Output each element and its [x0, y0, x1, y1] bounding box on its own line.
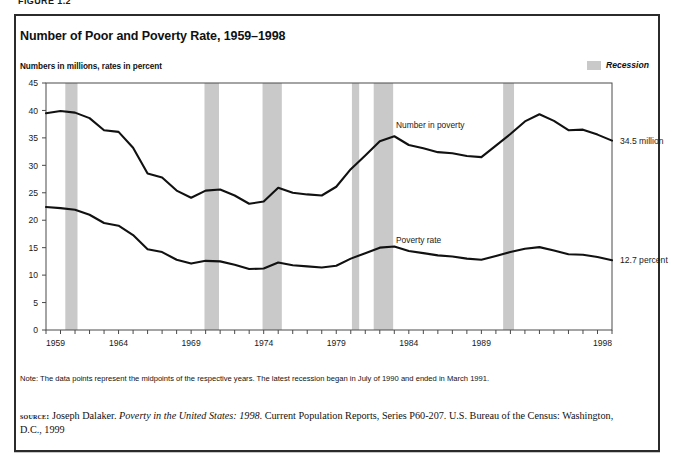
source-work-title: Poverty in the United States: 1998. — [119, 410, 262, 421]
figure-title: Number of Poor and Poverty Rate, 1959–19… — [20, 29, 285, 43]
figure-note: Note: The data points represent the midp… — [20, 374, 489, 383]
recession-swatch-icon — [587, 61, 601, 70]
legend: Recession — [587, 60, 649, 70]
figure-number-cropped: FIGURE 1.2 — [18, 0, 71, 5]
figure-root: FIGURE 1.2 Number of Poor and Poverty Ra… — [0, 0, 673, 460]
axis-units-subtitle: Numbers in millions, rates in percent — [20, 62, 162, 71]
figure-source: source: Joseph Dalaker. Poverty in the U… — [20, 409, 636, 436]
legend-label-recession: Recession — [606, 60, 649, 70]
source-kicker: source: — [20, 411, 49, 421]
bottom-divider — [14, 452, 660, 453]
figure-frame — [14, 14, 660, 452]
source-author: Joseph Dalaker. — [52, 410, 117, 421]
